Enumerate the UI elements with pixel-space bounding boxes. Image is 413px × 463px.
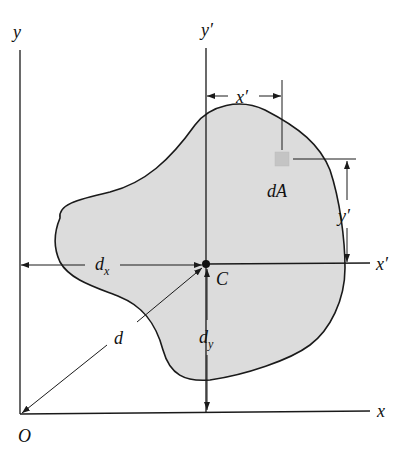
area-element [275,152,289,166]
x-axis [20,411,370,414]
origin-label: O [18,426,31,446]
y-prime-dim-label: y′ [336,206,351,226]
x-axis-label: x [376,401,385,421]
centroid-point [202,260,210,268]
centroid-label: C [216,269,229,289]
d-vector-lower [22,345,107,413]
parallel-axis-diagram: y x O y′ x′ C dA x′ y′ dx dy d [0,0,413,463]
x-prime-dim-label: x′ [235,87,249,107]
y-prime-axis-label: y′ [199,20,214,40]
x-prime-axis-label: x′ [375,254,389,274]
y-axis-label: y [11,22,21,42]
element-label: dA [267,181,288,201]
x-prime-axis [206,263,370,264]
d-label: d [114,328,124,348]
